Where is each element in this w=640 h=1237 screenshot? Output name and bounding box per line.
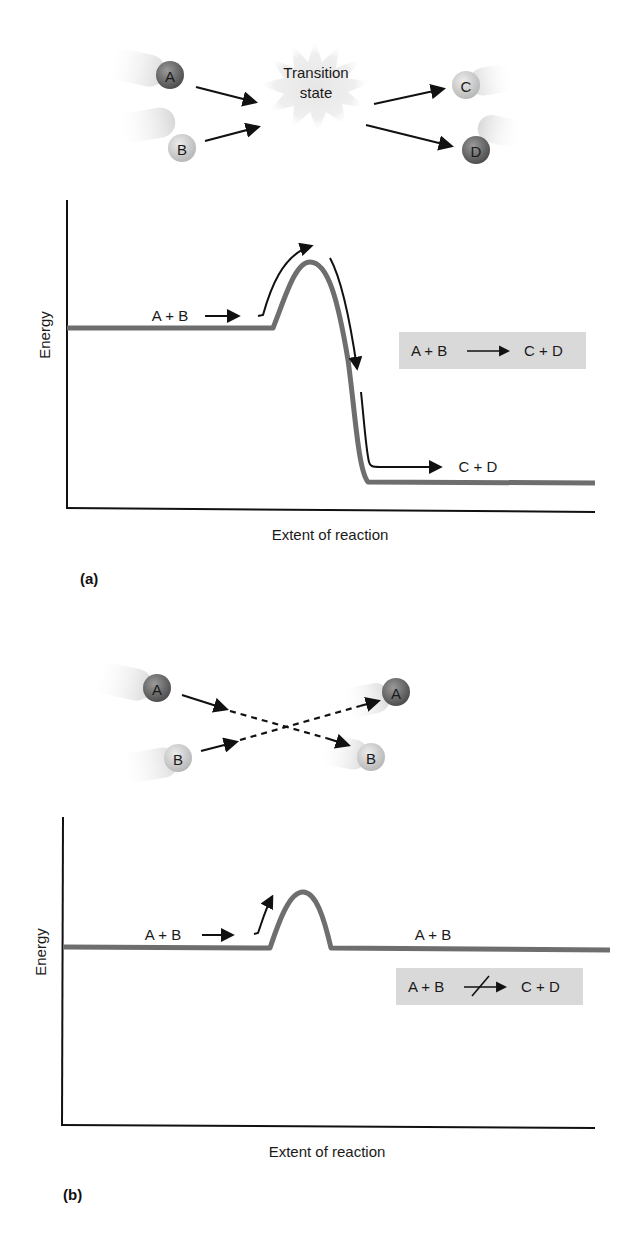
- scheme-b: A B A B: [90, 660, 410, 785]
- end-label: A + B: [415, 926, 451, 943]
- climb-arrow-icon: [258, 246, 311, 316]
- energy-curve: [67, 262, 595, 483]
- molecule-b-incoming: B: [164, 744, 192, 772]
- arrow-icon: [374, 89, 443, 104]
- svg-text:A: A: [152, 681, 162, 698]
- y-axis-label: Energy: [32, 928, 49, 976]
- descent-arrow-icon: [330, 258, 357, 368]
- svg-text:A: A: [165, 68, 175, 85]
- start-label: A + B: [145, 926, 181, 943]
- svg-text:B: B: [366, 750, 376, 767]
- start-label: A + B: [152, 307, 188, 324]
- svg-text:C: C: [461, 78, 472, 95]
- x-axis: [66, 508, 595, 512]
- equation-box-b: A + B C + D: [396, 968, 583, 1005]
- molecule-b: B: [168, 134, 196, 162]
- transition-state-label-line2: state: [300, 84, 333, 101]
- arrow-icon: [205, 127, 258, 141]
- motion-trail: [113, 105, 177, 145]
- end-label: C + D: [459, 458, 498, 475]
- svg-text:B: B: [173, 751, 183, 768]
- x-axis-label: Extent of reaction: [272, 526, 389, 543]
- descent-arrow-icon: [361, 392, 440, 467]
- panel-label-b: (b): [63, 1186, 82, 1203]
- equation-box-a: A + B C + D: [399, 332, 586, 369]
- molecule-a-outgoing: A: [382, 678, 410, 706]
- energy-plot-a: Energy Extent of reaction A + B C + D A …: [36, 200, 595, 543]
- climb-arrow-icon: [254, 897, 272, 934]
- svg-text:A: A: [391, 685, 401, 702]
- arrow-icon: [366, 125, 451, 146]
- transition-state-label-line1: Transition: [283, 64, 348, 81]
- dashed-path: [230, 711, 326, 738]
- arrow-icon: [196, 87, 255, 102]
- panel-label-a: (a): [80, 570, 98, 587]
- y-axis-label: Energy: [36, 311, 53, 359]
- panel-b: A B A B: [32, 660, 610, 1203]
- energy-plot-b: Energy Extent of reaction A + B A + B A …: [32, 817, 610, 1160]
- molecule-b-outgoing: B: [357, 743, 385, 771]
- svg-text:D: D: [471, 143, 482, 160]
- panel-a: Transition state A B C D: [36, 40, 595, 587]
- equation-right: C + D: [521, 978, 560, 995]
- arrow-icon: [201, 742, 236, 751]
- scheme-a: Transition state A B C D: [103, 40, 525, 164]
- y-axis: [62, 817, 63, 1126]
- molecule-a: A: [156, 61, 184, 89]
- svg-text:B: B: [177, 141, 187, 158]
- molecule-d: D: [462, 136, 490, 164]
- molecule-c: C: [452, 71, 480, 99]
- x-axis: [61, 1125, 595, 1128]
- reaction-energy-figure: Transition state A B C D: [0, 0, 640, 1237]
- equation-left: A + B: [408, 978, 444, 995]
- x-axis-label: Extent of reaction: [269, 1143, 386, 1160]
- dashed-path: [240, 706, 360, 740]
- equation-right: C + D: [524, 342, 563, 359]
- molecule-a-incoming: A: [143, 674, 171, 702]
- equation-left: A + B: [411, 342, 447, 359]
- arrow-icon: [182, 695, 226, 709]
